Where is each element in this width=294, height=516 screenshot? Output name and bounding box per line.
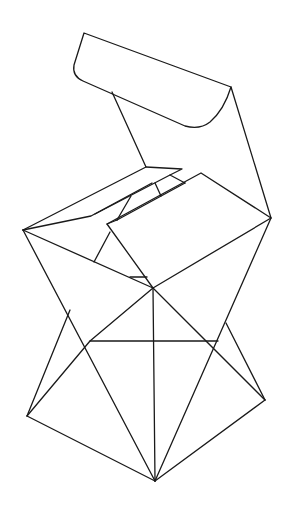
flap-right-edge bbox=[231, 87, 271, 218]
flap-left-edge bbox=[112, 92, 146, 167]
right-diagonal-b bbox=[155, 218, 271, 481]
bottom-left-edge bbox=[27, 416, 155, 481]
inner-band-upper bbox=[23, 183, 152, 230]
left-notch bbox=[94, 232, 110, 262]
left-kite-edge bbox=[27, 310, 70, 416]
inner-band-cross bbox=[155, 183, 161, 196]
lid-panel bbox=[107, 173, 271, 288]
right-diagonal-a bbox=[153, 288, 265, 400]
top-flap bbox=[74, 33, 231, 127]
box-diagram bbox=[0, 0, 294, 516]
inner-band-lower bbox=[95, 175, 170, 214]
left-kite-diagonal bbox=[27, 288, 153, 416]
left-triangle-edge bbox=[23, 230, 153, 288]
center-vertical bbox=[153, 288, 155, 481]
bottom-right-edge bbox=[155, 400, 265, 481]
left-lower-edge bbox=[23, 230, 155, 481]
box-diagram-svg bbox=[0, 0, 294, 516]
right-notch bbox=[226, 323, 265, 400]
inner-flap bbox=[23, 167, 185, 230]
